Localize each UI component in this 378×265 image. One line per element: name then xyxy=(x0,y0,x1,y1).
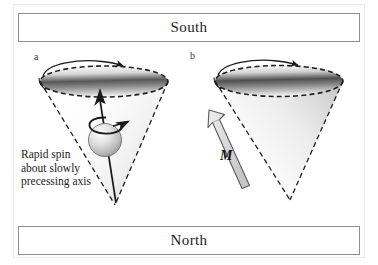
figure-outer-frame xyxy=(13,4,365,258)
caption-line-3: precessing axis xyxy=(21,175,133,189)
north-pole-box: North xyxy=(18,226,360,255)
panel-letter-b: b xyxy=(190,50,195,61)
north-pole-label: North xyxy=(171,232,208,249)
magnetization-vector-label: M xyxy=(220,148,232,164)
caption-line-1: Rapid spin xyxy=(21,148,133,162)
panel-letter-a: a xyxy=(34,51,38,62)
south-pole-box: South xyxy=(18,13,360,42)
panel-a-caption: Rapid spin about slowly precessing axis xyxy=(21,148,133,189)
south-pole-label: South xyxy=(170,19,207,36)
precession-figure: South North a b xyxy=(0,0,378,265)
caption-line-2: about slowly xyxy=(21,162,133,176)
